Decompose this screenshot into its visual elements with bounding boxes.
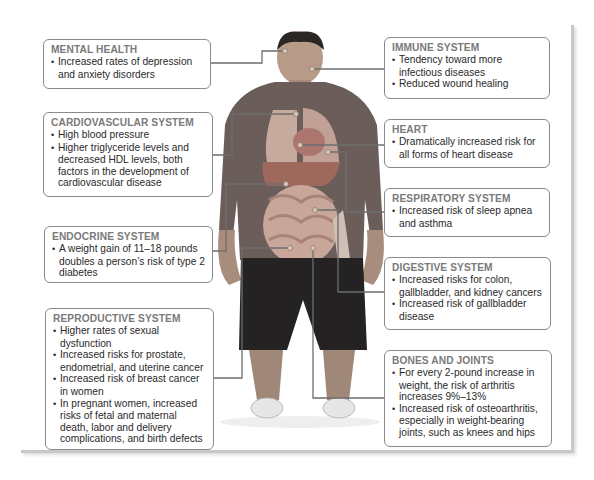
bones-joints-bullet: For every 2-pound increase in weight, th… bbox=[392, 367, 545, 403]
mental-health-box: MENTAL HEALTH Increased rates of depress… bbox=[43, 39, 211, 89]
digestive-bullet: Increased risk of gallbladder disease bbox=[392, 298, 544, 322]
endocrine-system-box: ENDOCRINE SYSTEM A weight gain of 11–18 … bbox=[44, 226, 213, 283]
bones-joints-bullet: Increased risk of osteoarthritis, especi… bbox=[392, 403, 545, 439]
reproductive-bullet: In pregnant women, increased risks of fe… bbox=[53, 398, 207, 445]
endocrine-title: ENDOCRINE SYSTEM bbox=[52, 231, 206, 242]
respiratory-bullet: Increased risk of sleep apnea and asthma bbox=[392, 205, 543, 229]
digestive-title: DIGESTIVE SYSTEM bbox=[392, 262, 544, 273]
digestive-system-box: DIGESTIVE SYSTEM Increased risks for col… bbox=[384, 257, 551, 330]
mental-health-title: MENTAL HEALTH bbox=[51, 44, 204, 55]
reproductive-title: REPRODUCTIVE SYSTEM bbox=[53, 313, 207, 324]
cardiovascular-system-box: CARDIOVASCULAR SYSTEM High blood pressur… bbox=[43, 112, 213, 197]
digestive-bullet: Increased risks for colon, gallbladder, … bbox=[392, 274, 544, 298]
mental-health-bullet: Increased rates of depression and anxiet… bbox=[51, 56, 204, 80]
reproductive-bullet: Increased risk of breast cancer in women bbox=[53, 373, 207, 397]
immune-title: IMMUNE SYSTEM bbox=[392, 42, 543, 53]
heart-box: HEART Dramatically increased risk for al… bbox=[384, 119, 550, 168]
immune-bullet: Tendency toward more infectious diseases bbox=[392, 54, 543, 78]
reproductive-bullet: Increased risks for prostate, endometria… bbox=[53, 349, 207, 373]
bones-joints-title: BONES AND JOINTS bbox=[392, 355, 545, 366]
respiratory-title: RESPIRATORY SYSTEM bbox=[392, 193, 543, 204]
endocrine-bullet: A weight gain of 11–18 pounds doubles a … bbox=[52, 243, 206, 279]
cardiovascular-title: CARDIOVASCULAR SYSTEM bbox=[51, 117, 206, 128]
immune-bullet: Reduced wound healing bbox=[392, 78, 543, 91]
reproductive-system-box: REPRODUCTIVE SYSTEM Higher rates of sexu… bbox=[45, 308, 214, 450]
heart-title: HEART bbox=[392, 124, 543, 135]
cardiovascular-bullet: Higher triglyceride levels and decreased… bbox=[51, 142, 206, 189]
heart-bullet: Dramatically increased risk for all form… bbox=[392, 136, 543, 160]
bones-and-joints-box: BONES AND JOINTS For every 2-pound incre… bbox=[384, 350, 552, 447]
reproductive-bullet: Higher rates of sexual dysfunction bbox=[53, 325, 207, 349]
human-figure-illustration bbox=[205, 30, 395, 430]
respiratory-system-box: RESPIRATORY SYSTEM Increased risk of sle… bbox=[384, 188, 550, 237]
cardiovascular-bullet: High blood pressure bbox=[51, 129, 206, 142]
immune-system-box: IMMUNE SYSTEM Tendency toward more infec… bbox=[384, 37, 550, 99]
